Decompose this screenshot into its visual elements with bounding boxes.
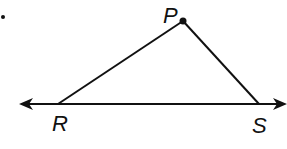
bullet-dot — [1, 15, 5, 19]
segment-rp — [58, 21, 183, 104]
triangle-diagram: P R S — [0, 0, 287, 149]
segment-ps — [183, 21, 259, 104]
label-p: P — [163, 3, 178, 28]
label-s: S — [252, 113, 267, 138]
vertex-p-point — [180, 18, 187, 25]
label-r: R — [52, 111, 68, 136]
